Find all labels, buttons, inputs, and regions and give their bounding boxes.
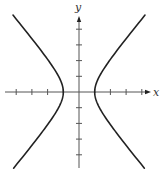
x-axis-arrow-icon bbox=[145, 90, 151, 94]
y-axis-arrow-icon bbox=[77, 16, 81, 22]
axes bbox=[5, 16, 151, 168]
x-axis-label: x bbox=[153, 86, 160, 99]
y-axis-label: y bbox=[74, 1, 82, 14]
hyperbola-plot: x y bbox=[0, 0, 160, 175]
